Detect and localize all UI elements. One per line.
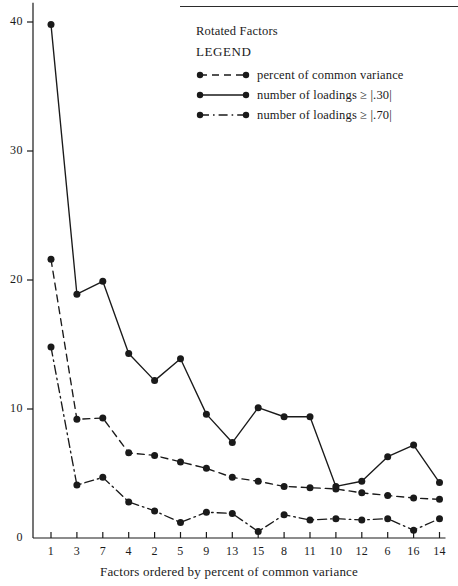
data-point: [410, 495, 417, 502]
x-axis-tick-label: 3: [64, 544, 90, 559]
data-point: [73, 416, 80, 423]
plot-area: [0, 0, 458, 586]
data-point: [177, 458, 184, 465]
series-2: [48, 344, 444, 535]
x-axis-tick-label: 15: [245, 544, 271, 559]
data-point: [410, 527, 417, 534]
data-point: [125, 449, 132, 456]
chart-figure: Rotated Factors LEGEND percent of common…: [0, 0, 458, 586]
data-point: [177, 355, 184, 362]
data-point: [436, 515, 443, 522]
data-point: [203, 509, 210, 516]
data-point: [384, 515, 391, 522]
data-point: [99, 415, 106, 422]
x-axis-tick-label: 9: [193, 544, 219, 559]
data-point: [358, 478, 365, 485]
series-line: [51, 25, 440, 487]
data-point: [73, 482, 80, 489]
data-point: [436, 496, 443, 503]
data-point: [229, 510, 236, 517]
data-point: [436, 479, 443, 486]
data-point: [307, 413, 314, 420]
axes-layer: [27, 3, 446, 538]
x-axis-tick-label: 6: [375, 544, 401, 559]
data-point: [358, 489, 365, 496]
series-layer: [48, 21, 444, 535]
data-point: [48, 21, 55, 28]
x-axis-tick-label: 1: [38, 544, 64, 559]
data-point: [307, 484, 314, 491]
data-point: [125, 350, 132, 357]
data-point: [384, 492, 391, 499]
series-1: [48, 21, 444, 490]
data-point: [48, 256, 55, 263]
data-point: [229, 439, 236, 446]
x-axis-tick-label: 8: [271, 544, 297, 559]
x-axis-title: Factors ordered by percent of common var…: [0, 564, 458, 580]
data-point: [203, 411, 210, 418]
x-axis-tick-label: 5: [168, 544, 194, 559]
data-point: [307, 516, 314, 523]
data-point: [99, 474, 106, 481]
data-point: [203, 465, 210, 472]
x-axis-tick-label: 16: [401, 544, 427, 559]
data-point: [151, 377, 158, 384]
data-point: [151, 452, 158, 459]
data-point: [255, 404, 262, 411]
x-axis-tick-label: 13: [219, 544, 245, 559]
y-axis-tick-label: 40: [0, 14, 23, 29]
x-axis-tick-label: 12: [349, 544, 375, 559]
data-point: [48, 344, 55, 351]
x-axis-tick-label: 10: [323, 544, 349, 559]
x-axis-tick-label: 11: [297, 544, 323, 559]
data-point: [332, 483, 339, 490]
y-axis-tick-label: 10: [0, 401, 23, 416]
y-axis-tick-label: 20: [0, 272, 23, 287]
data-point: [151, 507, 158, 514]
data-point: [99, 278, 106, 285]
series-line: [51, 347, 440, 531]
x-axis-tick-label: 14: [427, 544, 453, 559]
data-point: [177, 519, 184, 526]
data-point: [281, 511, 288, 518]
y-axis-tick-label: 30: [0, 143, 23, 158]
data-point: [384, 453, 391, 460]
y-axis-tick-label: 0: [0, 530, 23, 545]
data-point: [73, 291, 80, 298]
x-axis-tick-label: 2: [142, 544, 168, 559]
data-point: [358, 516, 365, 523]
data-point: [255, 478, 262, 485]
data-point: [281, 483, 288, 490]
x-axis-tick-label: 7: [90, 544, 116, 559]
x-axis-tick-label: 4: [116, 544, 142, 559]
data-point: [125, 498, 132, 505]
data-point: [332, 515, 339, 522]
data-point: [229, 474, 236, 481]
data-point: [255, 528, 262, 535]
data-point: [410, 442, 417, 449]
data-point: [281, 413, 288, 420]
